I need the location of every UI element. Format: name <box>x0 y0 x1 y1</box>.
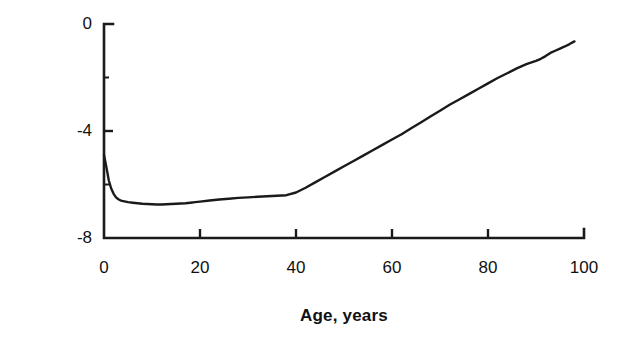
data-series-line <box>104 41 574 204</box>
axis-lines <box>104 24 584 238</box>
axis-ticks <box>104 78 488 239</box>
plot-area <box>0 0 634 343</box>
chart-figure: Log failure rate 0 -4 -8 0 20 40 60 80 1… <box>0 0 634 343</box>
